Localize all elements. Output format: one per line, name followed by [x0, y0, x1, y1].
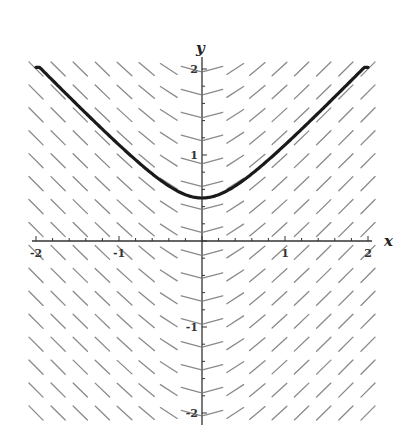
slope-segment: [339, 291, 353, 305]
y-tick-label: -2: [186, 407, 198, 420]
slope-segment: [51, 360, 65, 374]
slope-segment: [139, 361, 154, 374]
slope-segment: [250, 223, 265, 236]
slope-segment: [73, 200, 87, 214]
slope-segment: [294, 268, 308, 282]
slope-segment: [160, 132, 177, 143]
slope-segment: [227, 316, 244, 327]
slope-field-chart: -2-11221-1-2 x y: [0, 0, 419, 446]
slope-segment: [339, 154, 353, 168]
slope-segment: [139, 223, 154, 236]
slope-segment: [361, 406, 375, 420]
slope-segment: [294, 246, 308, 260]
slope-segment: [29, 406, 43, 420]
slope-segment: [361, 154, 375, 168]
slope-segment: [250, 292, 265, 305]
slope-segment: [160, 247, 177, 258]
slope-segment: [73, 291, 87, 305]
slope-segment: [139, 269, 154, 282]
slope-segment: [227, 247, 244, 258]
slope-segment: [317, 383, 331, 397]
slope-segment: [73, 314, 87, 328]
slope-segment: [227, 339, 244, 350]
slope-segment: [339, 314, 353, 328]
slope-segment: [317, 291, 331, 305]
slope-segment: [95, 406, 109, 420]
slope-segment: [361, 200, 375, 214]
slope-segment: [139, 246, 154, 259]
slope-segment: [272, 200, 287, 213]
slope-segment: [117, 315, 132, 328]
slope-segment: [181, 181, 200, 186]
slope-segment: [73, 131, 87, 145]
y-tick-label: 1: [190, 149, 198, 162]
slope-segment: [181, 89, 200, 94]
slope-segment: [361, 360, 375, 374]
slope-segment: [317, 223, 331, 237]
slope-segment: [339, 108, 353, 122]
slope-segment: [294, 62, 308, 76]
slope-segment: [117, 177, 132, 190]
slope-segment: [139, 86, 154, 99]
slope-segment: [250, 63, 265, 76]
slope-segment: [294, 108, 308, 122]
slope-segment: [272, 269, 287, 282]
slope-segment: [250, 200, 265, 213]
x-tick-label: -1: [113, 247, 125, 260]
slope-segment: [95, 154, 109, 168]
slope-segment: [117, 62, 132, 75]
slope-segment: [29, 314, 43, 328]
slope-segment: [361, 108, 375, 122]
slope-segment: [339, 268, 353, 282]
slope-segment: [361, 85, 375, 99]
slope-segment: [51, 406, 65, 420]
slope-segment: [139, 315, 154, 328]
x-tick-label: -2: [30, 247, 42, 260]
slope-segment: [203, 112, 222, 117]
slope-segment: [51, 314, 65, 328]
slope-segment: [117, 337, 132, 350]
slope-segment: [339, 383, 353, 397]
slope-segment: [29, 383, 43, 397]
slope-segment: [95, 268, 109, 282]
slope-segment: [227, 109, 244, 120]
slope-segment: [51, 131, 65, 145]
slope-segment: [339, 177, 353, 191]
slope-segment: [29, 85, 43, 99]
slope-segment: [227, 270, 244, 281]
slope-segment: [73, 62, 87, 76]
slope-segment: [117, 406, 132, 419]
slope-segment: [250, 246, 265, 259]
slope-segment: [73, 337, 87, 351]
slope-segment: [73, 383, 87, 397]
slope-segment: [139, 407, 154, 420]
slope-segment: [317, 245, 331, 259]
slope-segment: [73, 360, 87, 374]
slope-segment: [139, 177, 154, 190]
slope-segment: [361, 337, 375, 351]
slope-segment: [73, 406, 87, 420]
slope-segment: [272, 383, 287, 396]
slope-segment: [294, 406, 308, 420]
slope-segment: [317, 268, 331, 282]
slope-segment: [203, 204, 222, 209]
slope-segment: [272, 406, 287, 419]
y-axis-title: y: [195, 39, 206, 57]
y-tick-label: 2: [190, 63, 198, 76]
slope-segment: [117, 292, 132, 305]
slope-segment: [117, 131, 132, 144]
slope-segment: [339, 245, 353, 259]
slope-segment: [181, 342, 200, 347]
y-tick-label: -1: [186, 321, 198, 334]
slope-segment: [29, 268, 43, 282]
slope-segment: [339, 62, 353, 76]
slope-segment: [294, 154, 308, 168]
x-tick-label: 2: [364, 247, 372, 260]
slope-segment: [227, 86, 244, 97]
slope-segment: [250, 177, 265, 190]
slope-segment: [361, 314, 375, 328]
slope-segment: [95, 108, 109, 122]
slope-segment: [294, 314, 308, 328]
slope-segment: [317, 62, 331, 76]
slope-segment: [51, 337, 65, 351]
